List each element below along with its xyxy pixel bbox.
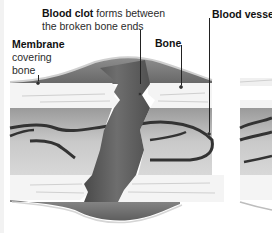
bone-right-bottom [118, 175, 224, 202]
leader-blood-clot [140, 30, 141, 84]
label-bone-text: Bone [155, 37, 181, 49]
label-membrane-desc1: covering [12, 51, 52, 64]
fracture-illustration [0, 0, 272, 233]
label-blood-clot-line2: the broken bone ends [42, 20, 144, 33]
leader-blood-vessel [209, 18, 210, 134]
membrane-bottom [10, 200, 180, 221]
label-blood-vessel: Blood vessel [212, 8, 272, 21]
label-bone: Bone [155, 37, 181, 50]
label-membrane-desc2: bone [12, 64, 35, 77]
bone-left-bottom [10, 175, 92, 200]
label-blood-clot: Blood clot forms between [42, 7, 165, 20]
label-blood-clot-desc1: forms between [96, 7, 165, 19]
pointer-membrane [36, 81, 40, 85]
label-membrane-title: Membrane [12, 38, 65, 51]
label-blood-clot-title: Blood clot [42, 7, 93, 19]
pointer-blood-clot [138, 92, 142, 96]
label-membrane-title-text: Membrane [12, 38, 65, 50]
pointer-blood-vessel [207, 132, 211, 136]
marrow-right [138, 108, 212, 175]
pointer-bone [179, 85, 183, 89]
leader-bone [181, 45, 182, 87]
label-blood-vessel-text: Blood vessel [212, 8, 272, 20]
